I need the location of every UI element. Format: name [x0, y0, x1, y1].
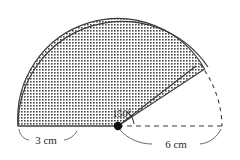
leader-line-left-end — [64, 131, 77, 140]
leader-line-left-start — [19, 129, 29, 140]
label-left-radius: 3 cm — [35, 134, 57, 146]
geometry-figure-container: 3 cm 150° 6 cm — [0, 0, 240, 160]
geometry-diagram: 3 cm 150° 6 cm — [0, 0, 240, 160]
shaded-sector — [18, 19, 205, 126]
center-vertex-dot — [114, 122, 122, 130]
label-angle: 150° — [113, 108, 132, 119]
leader-line-right-end — [200, 129, 221, 144]
label-right-radius: 6 cm — [165, 138, 187, 150]
leader-line-right-start — [120, 130, 152, 144]
remainder-arc-dashed — [200, 64, 222, 126]
